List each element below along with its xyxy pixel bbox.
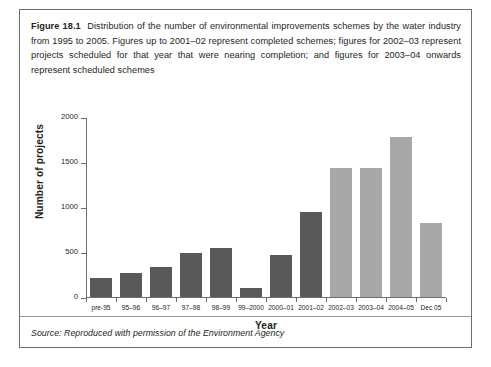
bar (300, 212, 322, 296)
bar (270, 255, 292, 297)
x-tick (296, 298, 297, 302)
x-tick (236, 298, 237, 302)
bar (180, 253, 202, 297)
bar-group: 2003–04 (356, 118, 386, 297)
x-tick (446, 298, 447, 302)
y-tick-label: 500 (65, 247, 78, 256)
source-note: Source: Reproduced with permission of th… (31, 328, 284, 338)
bar-group: 2000–01 (266, 118, 296, 297)
bar-group: 2002–03 (326, 118, 356, 297)
y-axis-title: Number of projects (34, 117, 45, 227)
bar-group: 96–97 (146, 118, 176, 297)
y-tick-label: 2000 (61, 112, 78, 121)
x-tick (146, 298, 147, 302)
y-tick-label: 1500 (61, 157, 78, 166)
bar-group: 99–2000 (236, 118, 266, 297)
bar (210, 248, 232, 297)
x-tick (116, 298, 117, 302)
y-tick-label: 1000 (61, 202, 78, 211)
bar-chart: Number of projects 0500100015002000 pre-… (20, 108, 473, 313)
bar (390, 137, 412, 297)
source-divider (20, 316, 471, 317)
bar (420, 223, 442, 297)
x-tick (266, 298, 267, 302)
bar-group: pre-95 (86, 118, 116, 297)
y-tick-label: 0 (74, 292, 78, 301)
x-tick-label: Dec 05 (404, 304, 458, 311)
bar-group: 2001–02 (296, 118, 326, 297)
x-tick (326, 298, 327, 302)
bar-group: 98–99 (206, 118, 236, 297)
figure-caption-body: Distribution of the number of environmen… (31, 21, 461, 75)
bar-group: Dec 05 (416, 118, 446, 297)
x-tick (86, 298, 87, 302)
bar-group: 95–96 (116, 118, 146, 297)
plot-area: 0500100015002000 pre-9595–9696–9797–9898… (86, 118, 446, 298)
bar-group: 97–98 (176, 118, 206, 297)
figure-label: Figure 18.1 (31, 21, 81, 31)
bar-series: pre-9595–9696–9797–9898–9999–20002000–01… (86, 118, 446, 297)
bar (360, 168, 382, 297)
x-tick (386, 298, 387, 302)
x-tick (206, 298, 207, 302)
bar (150, 267, 172, 297)
x-tick (416, 298, 417, 302)
bar (120, 273, 142, 297)
bar (330, 168, 352, 297)
bar-group: 2004–05 (386, 118, 416, 297)
figure-caption: Figure 18.1 Distribution of the number o… (31, 19, 461, 77)
figure-container: Figure 18.1 Distribution of the number o… (19, 9, 472, 348)
bar (90, 278, 112, 297)
bar (240, 288, 262, 297)
x-tick (356, 298, 357, 302)
x-tick (176, 298, 177, 302)
